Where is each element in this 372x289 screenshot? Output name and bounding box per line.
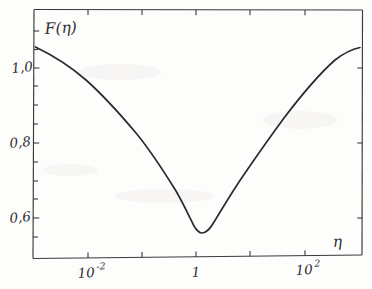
y-tick-label-2: 0,8: [9, 133, 32, 151]
top-axis-ticks: [88, 10, 305, 16]
x-tick-label-3-mantissa: 10: [295, 261, 314, 278]
y-tick-label-1: 1,0: [11, 58, 34, 76]
x-tick-label-2: 1: [191, 263, 201, 280]
top-axis-line: [34, 10, 363, 11]
x-tick-label-3: 10 2: [295, 257, 321, 278]
y-axis-title: F(η): [43, 18, 77, 38]
x-tick-label-1-exponent: -2: [96, 260, 106, 272]
x-tick-label-3-exponent: 2: [313, 257, 321, 268]
x-axis-title: η: [332, 232, 343, 250]
y-axis-line: [33, 10, 34, 259]
x-axis-line: [33, 255, 362, 259]
y-tick-labels: 1,0 0,8 0,6: [9, 58, 34, 226]
y-tick-label-3: 0,6: [9, 208, 32, 226]
x-tick-label-1-mantissa: 10: [77, 264, 96, 281]
plot-frame: [33, 10, 363, 259]
x-axis-ticks: [88, 250, 305, 258]
paper-texture: [42, 64, 338, 203]
x-tick-label-1: 10 -2: [77, 260, 107, 281]
x-tick-label-2-mantissa: 1: [191, 263, 201, 280]
x-tick-labels: 10 -2 1 10 2: [77, 257, 321, 281]
chart-svg: 1,0 0,8 0,6 10 -2 1 10 2 F(η) η: [0, 0, 372, 289]
figure-panel: 1,0 0,8 0,6 10 -2 1 10 2 F(η) η: [0, 0, 372, 289]
